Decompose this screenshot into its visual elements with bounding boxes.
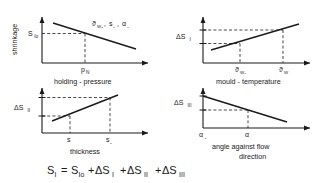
- svg-text:W₀: W₀: [240, 70, 246, 75]
- x-tick-label-theta-w: ϑ W: [279, 66, 289, 75]
- y-axis-title-shrinkage: shrinkage: [10, 24, 19, 55]
- svg-text:p: p: [81, 66, 85, 74]
- trend-line: [203, 96, 287, 122]
- svg-text:ΔS: ΔS: [14, 104, 24, 111]
- formula-term-0-sub: Io: [79, 171, 85, 178]
- y-tick-label-s-io: S Io: [28, 30, 39, 39]
- svg-text:III: III: [188, 103, 192, 108]
- x-axis-title-angle-line1: angle against flow: [212, 142, 270, 151]
- y-axis-label-delta-s-two: ΔS II: [14, 104, 30, 113]
- svg-text:W: W: [284, 70, 289, 75]
- x-tick-label-s0: s ₀: [106, 136, 112, 145]
- x-axis-title-holding-pressure: holding - pressure: [54, 77, 112, 86]
- svg-text:N: N: [86, 70, 90, 75]
- formula-op-3: +: [155, 164, 161, 176]
- formula-lhs-sub: I: [55, 171, 57, 178]
- svg-text:ϑ: ϑ: [235, 66, 239, 73]
- formula-op-1: +: [88, 164, 94, 176]
- svg-text:α: α: [122, 20, 126, 27]
- x-axis-title-thickness: thickness: [70, 147, 100, 156]
- svg-text:S: S: [28, 30, 33, 37]
- svg-text:W₀: W₀: [97, 24, 103, 29]
- panel-delta-s-three-vs-angle: ΔS III α ₀ α angle against flow directio…: [174, 88, 310, 161]
- svg-text:₀: ₀: [110, 140, 112, 145]
- x-axis-title-angle-line2: direction: [239, 152, 266, 161]
- y-axis-label-delta-s-three: ΔS III: [174, 99, 192, 108]
- panel-delta-s-two-vs-thickness: ΔS II s s ₀ thickness: [14, 88, 148, 156]
- svg-text:,: ,: [117, 20, 119, 27]
- x-tick-label-alpha: α: [245, 131, 249, 138]
- x-axis-title-mould-temperature: mould - temperature: [216, 77, 281, 86]
- formula-term-2-base: ΔS: [127, 164, 142, 176]
- svg-text:ϑ: ϑ: [279, 66, 283, 73]
- svg-text:,: ,: [104, 20, 106, 27]
- svg-text:α: α: [199, 131, 203, 138]
- shrinkage-formula: S I = S Io + ΔS I + ΔS II + ΔS III: [47, 164, 185, 178]
- formula-term-1-base: ΔS: [95, 164, 110, 176]
- x-tick-label-alpha-0: α ₀: [199, 131, 207, 140]
- svg-text:ΔS: ΔS: [176, 33, 186, 40]
- trend-line: [52, 95, 118, 121]
- svg-text:α: α: [245, 131, 249, 138]
- svg-text:₀: ₀: [205, 135, 207, 140]
- formula-term-0-base: S: [71, 164, 78, 176]
- svg-text:ϑ: ϑ: [92, 20, 96, 27]
- svg-text:₀: ₀: [127, 24, 129, 29]
- diagram-canvas: S Io p N shrinkage holding - pressure ϑ …: [0, 0, 327, 183]
- trend-line: [211, 24, 299, 50]
- svg-text:Io: Io: [34, 34, 38, 39]
- svg-text:II: II: [28, 108, 31, 113]
- formula-op-2: +: [120, 164, 126, 176]
- svg-text:I: I: [190, 37, 191, 42]
- panel-delta-s-one-vs-mould-temperature: ΔS I ϑ W₀ ϑ W mould - temperature: [176, 17, 310, 86]
- y-axis-label-delta-s-one: ΔS I: [176, 33, 191, 42]
- x-tick-label-theta-w0: ϑ W₀: [235, 66, 246, 75]
- formula-term-3-base: ΔS: [162, 164, 177, 176]
- formula-term-1-sub: I: [112, 171, 114, 178]
- formula-term-2-sub: II: [144, 171, 148, 178]
- x-tick-label-p-n: p N: [81, 66, 90, 75]
- formula-term-3-sub: III: [179, 171, 185, 178]
- svg-text:ΔS: ΔS: [174, 99, 184, 106]
- panel-shrinkage-vs-holding-pressure: S Io p N shrinkage holding - pressure ϑ …: [10, 17, 148, 86]
- formula-equals: =: [61, 164, 67, 176]
- svg-text:₀: ₀: [113, 24, 115, 29]
- x-tick-label-s: s: [67, 136, 71, 143]
- formula-lhs-base: S: [47, 164, 54, 176]
- svg-text:s: s: [67, 136, 71, 143]
- curve-label-parameters: ϑ W₀ , s ₀ , α ₀: [92, 20, 129, 29]
